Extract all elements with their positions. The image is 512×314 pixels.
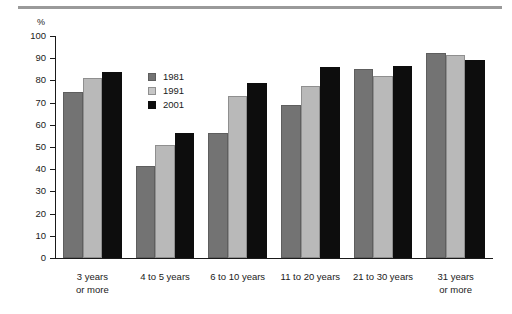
bar-1981-2	[208, 133, 228, 258]
y-tick-label-text: 30	[20, 186, 46, 196]
legend-label-1981: 1981	[163, 72, 184, 82]
legend-swatch-1981-icon	[148, 73, 156, 81]
x-axis-label-line2: or more	[413, 283, 498, 296]
y-tick-label: 60	[16, 120, 46, 130]
y-tick-label: 90	[16, 53, 46, 63]
legend-label-2001: 2001	[163, 100, 184, 110]
y-tick-mark	[50, 125, 55, 126]
bar-1981-3	[281, 105, 301, 258]
legend-label-1991: 1991	[163, 86, 184, 96]
y-axis-line	[55, 36, 56, 258]
y-tick-label-text: 90	[20, 53, 46, 63]
y-tick-label: 80	[16, 75, 46, 85]
y-tick-mark	[50, 80, 55, 81]
legend-item-1981: 1981	[148, 70, 184, 84]
bar-2001-5	[465, 60, 485, 258]
y-tick-label: 30	[16, 186, 46, 196]
y-tick-label: 100	[16, 31, 46, 41]
bar-2001-1	[175, 133, 195, 258]
legend-swatch-1991-icon	[148, 87, 156, 95]
y-tick-mark	[50, 214, 55, 215]
y-tick-mark	[50, 169, 55, 170]
bar-1981-1	[136, 166, 156, 258]
y-tick-label: 70	[16, 98, 46, 108]
bar-2001-0	[102, 72, 122, 258]
y-tick-label-text: 10	[20, 231, 46, 241]
bar-2001-4	[393, 66, 413, 258]
y-tick-label-text: 0	[20, 253, 46, 263]
y-tick-mark	[50, 191, 55, 192]
y-tick-label: 10	[16, 231, 46, 241]
bar-1991-4	[373, 76, 393, 258]
y-tick-mark	[50, 58, 55, 59]
y-tick-label-text: 80	[20, 75, 46, 85]
x-axis-label-5: 31 yearsor more	[413, 270, 498, 296]
y-tick-mark	[50, 258, 55, 259]
y-tick-label-text: 100	[20, 31, 46, 41]
x-axis-label-line2: or more	[50, 283, 135, 296]
plot-area: 0102030405060708090100 3 yearsor more4 t…	[0, 0, 512, 314]
bar-1991-3	[301, 86, 321, 258]
y-tick-label: 0	[16, 253, 46, 263]
chart-figure: % 0102030405060708090100 3 yearsor more4…	[0, 0, 512, 314]
bar-1991-5	[446, 55, 466, 258]
y-tick-label-text: 20	[20, 209, 46, 219]
y-tick-label-text: 60	[20, 120, 46, 130]
bar-1981-4	[354, 69, 374, 258]
y-tick-mark	[50, 236, 55, 237]
y-tick-mark	[50, 147, 55, 148]
bar-1991-0	[83, 78, 103, 258]
bar-2001-3	[320, 67, 340, 258]
x-axis-label-line1: 31 years	[413, 270, 498, 283]
y-tick-label: 40	[16, 164, 46, 174]
y-tick-mark	[50, 103, 55, 104]
y-tick-label-text: 70	[20, 98, 46, 108]
bar-1981-0	[63, 92, 83, 259]
bar-1991-2	[228, 96, 248, 258]
bar-1981-5	[426, 53, 446, 258]
bar-2001-2	[247, 83, 267, 258]
bar-1991-1	[155, 145, 175, 258]
y-tick-label-text: 50	[20, 142, 46, 152]
legend-item-1991: 1991	[148, 84, 184, 98]
legend-item-2001: 2001	[148, 98, 184, 112]
y-tick-mark	[50, 36, 55, 37]
chart-legend: 1981 1991 2001	[148, 70, 184, 112]
y-tick-label-text: 40	[20, 164, 46, 174]
y-tick-label: 20	[16, 209, 46, 219]
y-tick-label: 50	[16, 142, 46, 152]
legend-swatch-2001-icon	[148, 101, 156, 109]
x-axis-line	[55, 258, 493, 259]
